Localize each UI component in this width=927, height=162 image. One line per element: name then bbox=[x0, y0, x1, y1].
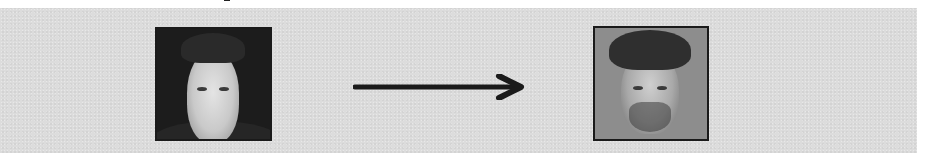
target-beard bbox=[629, 102, 671, 132]
source-right-eye bbox=[219, 87, 229, 91]
diagram-panel bbox=[0, 8, 917, 153]
clipped-title-fragment bbox=[224, 0, 230, 1]
target-right-eye bbox=[657, 86, 667, 90]
source-face-photo bbox=[155, 27, 272, 141]
target-hair bbox=[609, 30, 691, 70]
arrow-right-icon bbox=[353, 74, 525, 100]
source-left-eye bbox=[197, 87, 207, 91]
target-left-eye bbox=[633, 86, 643, 90]
target-face-photo bbox=[593, 26, 709, 141]
source-hair bbox=[181, 33, 245, 63]
source-face bbox=[187, 51, 239, 141]
